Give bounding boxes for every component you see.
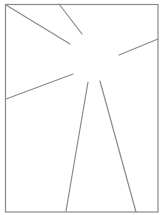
rays-group bbox=[6, 4, 158, 212]
light-burst-drawing bbox=[0, 0, 166, 215]
diagram-canvas bbox=[0, 0, 166, 215]
ray-right bbox=[119, 39, 158, 55]
ray-top-left bbox=[6, 5, 70, 44]
ray-bottom-left bbox=[66, 82, 88, 211]
ray-left bbox=[6, 74, 73, 99]
frame-border bbox=[6, 5, 159, 213]
ray-bottom-right bbox=[100, 81, 136, 212]
ray-top bbox=[59, 4, 82, 34]
